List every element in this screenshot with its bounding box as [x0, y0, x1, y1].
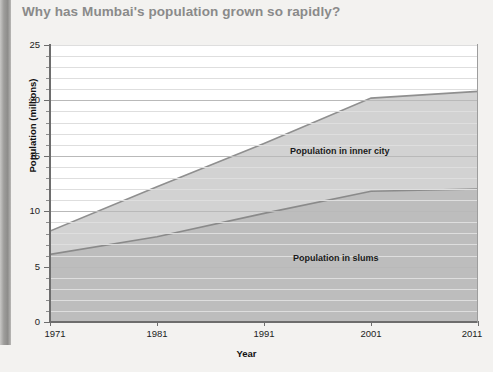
x-tick-1981 — [157, 322, 158, 326]
y-axis-label-10: 10 — [0, 205, 40, 216]
x-axis-label-1981: 1981 — [146, 328, 167, 339]
y-tick-5 — [44, 267, 49, 268]
stacked-area-series — [50, 45, 478, 322]
y-tick-15 — [44, 156, 49, 157]
y-axis-label-0: 0 — [0, 316, 40, 327]
y-axis-label-25: 25 — [0, 39, 40, 50]
gridline-14 — [50, 167, 478, 168]
gridline-18 — [50, 123, 478, 124]
plot-right-border — [477, 44, 478, 323]
gridline-17 — [50, 134, 478, 135]
x-tick-1971 — [50, 322, 51, 326]
gridline-3 — [50, 289, 478, 290]
gridline-4 — [50, 278, 478, 279]
y-minor-tick-19 — [46, 111, 49, 112]
y-minor-tick-6 — [46, 256, 49, 257]
y-minor-tick-18 — [46, 123, 49, 124]
y-minor-tick-3 — [46, 289, 49, 290]
x-axis-title: Year — [0, 348, 493, 359]
y-axis-label-5: 5 — [0, 261, 40, 272]
gridline-8 — [50, 233, 478, 234]
gridline-20 — [50, 100, 478, 101]
y-minor-tick-16 — [46, 145, 49, 146]
x-tick-2011 — [478, 322, 479, 326]
y-minor-tick-11 — [46, 200, 49, 201]
y-minor-tick-7 — [46, 245, 49, 246]
gridline-1 — [50, 311, 478, 312]
x-axis-label-1971: 1971 — [44, 328, 65, 339]
y-minor-tick-9 — [46, 222, 49, 223]
gridline-25 — [50, 45, 478, 46]
gridline-7 — [50, 244, 478, 245]
y-tick-25 — [44, 45, 49, 46]
y-minor-tick-2 — [46, 300, 49, 301]
y-minor-tick-14 — [46, 167, 49, 168]
gridline-10 — [50, 211, 478, 212]
y-minor-tick-17 — [46, 134, 49, 135]
y-minor-tick-8 — [46, 234, 49, 235]
gridline-2 — [50, 300, 478, 301]
series-label-inner-city: Population in inner city — [290, 146, 390, 156]
y-tick-0 — [44, 322, 49, 323]
gridline-24 — [50, 56, 478, 57]
gridline-15 — [50, 156, 478, 157]
gridline-12 — [50, 189, 478, 190]
y-axis-line — [49, 44, 51, 323]
y-tick-10 — [44, 211, 49, 212]
gridline-6 — [50, 256, 478, 257]
gridline-11 — [50, 200, 478, 201]
gridline-22 — [50, 78, 478, 79]
plot-area: Population in inner city Population in s… — [50, 45, 478, 322]
y-tick-20 — [44, 100, 49, 101]
y-minor-tick-24 — [46, 56, 49, 57]
y-minor-tick-22 — [46, 78, 49, 79]
x-axis-label-2001: 2001 — [360, 328, 381, 339]
gridline-13 — [50, 178, 478, 179]
series-label-slums: Population in slums — [293, 253, 379, 263]
gridline-19 — [50, 111, 478, 112]
y-minor-tick-1 — [46, 311, 49, 312]
page-background: Why has Mumbai's population grown so rap… — [0, 0, 493, 372]
x-axis-label-2011: 2011 — [462, 328, 482, 339]
x-tick-1991 — [264, 322, 265, 326]
x-tick-2001 — [371, 322, 372, 326]
x-axis-label-1991: 1991 — [253, 328, 274, 339]
gridline-5 — [50, 267, 478, 268]
gridline-16 — [50, 145, 478, 146]
area-chart: Population in inner city Population in s… — [0, 0, 493, 372]
y-minor-tick-21 — [46, 89, 49, 90]
gridline-23 — [50, 67, 478, 68]
y-axis-title: Population (millions) — [27, 56, 38, 196]
y-minor-tick-4 — [46, 278, 49, 279]
y-minor-tick-13 — [46, 178, 49, 179]
gridline-9 — [50, 222, 478, 223]
y-minor-tick-23 — [46, 67, 49, 68]
gridline-21 — [50, 89, 478, 90]
y-minor-tick-12 — [46, 189, 49, 190]
